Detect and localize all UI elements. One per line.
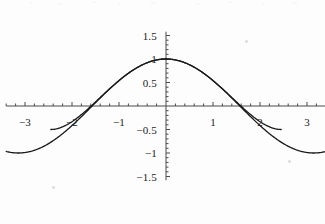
y-axis-tick-label: −1.5 [0, 171, 157, 183]
y-axis-tick-label: 0.5 [0, 77, 157, 89]
y-axis-tick-label: −1 [0, 147, 157, 159]
y-axis-tick-label: 1 [0, 53, 157, 65]
x-axis-tick-label: 3 [304, 116, 310, 128]
y-axis-tick-label: −0.5 [0, 124, 157, 136]
x-axis-tick-label: 1 [210, 116, 216, 128]
x-axis-tick-label: 2 [257, 116, 263, 128]
chart-figure: −3−2−11231.510.5−0.5−1−1.5 [0, 0, 325, 224]
y-axis-tick-label: 1.5 [0, 30, 157, 42]
